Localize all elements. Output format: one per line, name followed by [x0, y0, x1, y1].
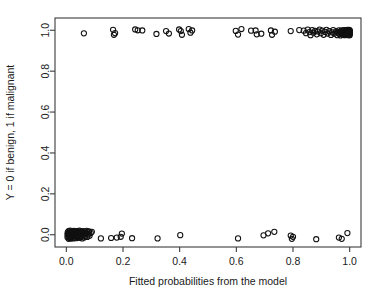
data-point	[288, 28, 293, 33]
data-point	[265, 231, 270, 236]
data-point	[235, 236, 240, 241]
x-tick-label: 0.8	[286, 255, 301, 267]
data-point	[272, 229, 277, 234]
data-point	[239, 26, 244, 31]
y-tick-label: 0.8	[39, 64, 51, 79]
data-point	[178, 233, 183, 238]
y-tick-label: 0.4	[39, 145, 51, 160]
data-point	[154, 31, 159, 36]
series-0	[81, 26, 352, 38]
data-point	[314, 237, 319, 242]
plot-frame-rect	[55, 18, 361, 247]
y-tick-label: 0.6	[39, 105, 51, 120]
y-axis-ticks: 0.00.20.40.60.81.0	[39, 23, 55, 242]
plot-frame	[55, 18, 361, 247]
x-tick-label: 0.2	[116, 255, 131, 267]
data-points-group	[65, 26, 352, 241]
y-tick-label: 0.0	[39, 227, 51, 242]
x-tick-label: 1.0	[342, 255, 357, 267]
data-point	[98, 236, 103, 241]
data-point	[109, 235, 114, 240]
x-axis-ticks: 0.00.20.40.60.81.0	[59, 247, 357, 267]
data-point	[345, 231, 350, 236]
y-axis-title: Y = 0 if benign, 1 if malignant	[4, 65, 16, 201]
x-tick-label: 0.0	[59, 255, 74, 267]
scatter-plot-figure: 0.00.20.40.60.81.0 0.00.20.40.60.81.0 Fi…	[0, 0, 385, 296]
x-tick-label: 0.6	[229, 255, 244, 267]
plot-canvas: 0.00.20.40.60.81.0 0.00.20.40.60.81.0 Fi…	[0, 0, 385, 296]
y-tick-label: 1.0	[39, 23, 51, 38]
data-point	[129, 236, 134, 241]
series-1	[65, 228, 350, 242]
y-tick-label: 0.2	[39, 186, 51, 201]
data-point	[81, 31, 86, 36]
x-axis-title: Fitted probabilities from the model	[129, 275, 287, 287]
x-tick-label: 0.4	[172, 255, 187, 267]
data-point	[119, 231, 124, 236]
data-point	[155, 236, 160, 241]
